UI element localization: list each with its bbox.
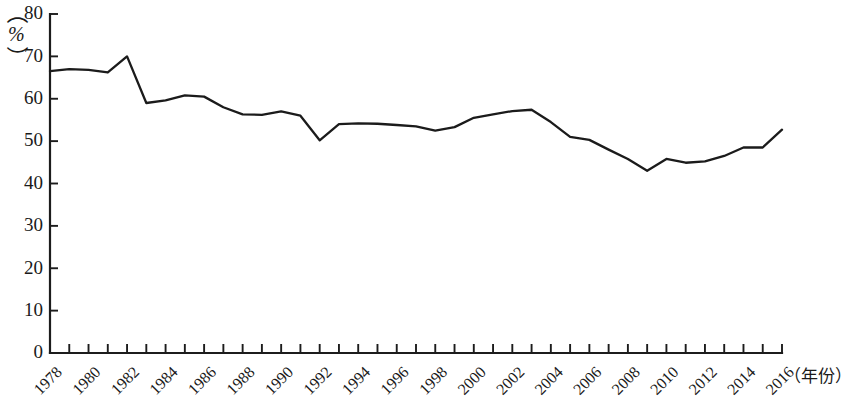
x-tick-label: 1998	[416, 363, 451, 398]
y-tick-label: 70	[24, 45, 43, 66]
x-tick-label: 1994	[339, 363, 374, 398]
y-axis-tick-labels: 01020304050607080	[24, 2, 43, 362]
x-tick-label: 1978	[30, 363, 65, 398]
x-tick-label: 1996	[377, 363, 412, 398]
x-tick-label: 2004	[531, 363, 566, 398]
x-tick-label: 1982	[108, 363, 143, 398]
x-tick-label: 2010	[647, 363, 682, 398]
x-axis-ticks	[50, 344, 782, 353]
x-tick-label: 2002	[493, 363, 528, 398]
y-tick-label: 20	[24, 257, 43, 278]
y-tick-label: 40	[24, 172, 43, 193]
x-tick-label: 2000	[454, 363, 489, 398]
x-tick-label: 1990	[262, 363, 297, 398]
x-tick-label: 2012	[685, 363, 720, 398]
x-axis-tick-labels: 1978198019821984198619881990199219941996…	[30, 363, 797, 398]
x-axis-caption: （年份）	[784, 362, 842, 387]
y-tick-label: 80	[24, 2, 43, 23]
y-tick-label: 60	[24, 87, 43, 108]
x-tick-label: 2014	[724, 363, 759, 398]
y-tick-label: 10	[24, 299, 43, 320]
y-tick-label: 0	[34, 341, 44, 362]
x-tick-label: 1992	[300, 363, 335, 398]
x-tick-label: 2008	[608, 363, 643, 398]
chart-canvas: 01020304050607080 1978198019821984198619…	[0, 0, 842, 401]
data-series-line	[50, 56, 782, 170]
x-tick-label: 1986	[185, 363, 220, 398]
y-axis-ticks	[50, 14, 58, 353]
y-tick-label: 50	[24, 129, 43, 150]
y-tick-label: 30	[24, 214, 43, 235]
x-tick-label: 1980	[69, 363, 104, 398]
x-tick-label: 2006	[570, 363, 605, 398]
x-tick-label: 1988	[223, 363, 258, 398]
x-tick-label: 1984	[146, 363, 181, 398]
plot-area: 01020304050607080 1978198019821984198619…	[24, 2, 797, 397]
line-chart: 01020304050607080 1978198019821984198619…	[0, 0, 842, 401]
